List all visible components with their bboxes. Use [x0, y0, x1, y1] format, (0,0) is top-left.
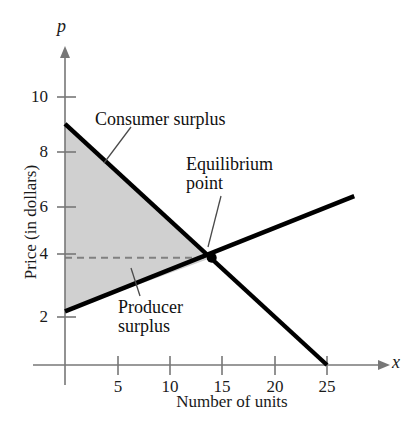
equilibrium-point-marker: [207, 253, 217, 263]
producer-annotation-line-1: Producer: [118, 298, 183, 317]
equilibrium-annotation-line-1: Equilibrium: [186, 155, 273, 174]
chart-canvas: [0, 0, 408, 428]
x-tick-label-5: 5: [114, 377, 123, 397]
y-axis-symbol-label: p: [57, 16, 66, 37]
x-axis-arrow-icon: [378, 360, 390, 370]
y-tick-label-2: 2: [8, 307, 48, 327]
y-axis-title: Price (in dollars): [21, 137, 41, 307]
consumer-surplus-leader-line: [104, 127, 131, 163]
equilibrium-point-annotation: Equilibrium point: [186, 155, 273, 193]
producer-surplus-annotation: Producer surplus: [118, 298, 183, 336]
y-tick-label-10: 10: [8, 87, 48, 107]
equilibrium-leader-line: [208, 196, 221, 247]
x-tick-label-25: 25: [319, 377, 336, 397]
producer-annotation-line-2: surplus: [118, 317, 183, 336]
equilibrium-annotation-line-2: point: [186, 174, 273, 193]
surplus-chart-figure: 10 8 6 4 2 5 10 15 20 25 p x Price (in d…: [0, 0, 408, 428]
x-axis-symbol-label: x: [392, 352, 400, 373]
consumer-surplus-annotation: Consumer surplus: [95, 110, 226, 129]
y-axis-arrow-icon: [60, 46, 70, 58]
x-axis-title: Number of units: [176, 392, 287, 412]
